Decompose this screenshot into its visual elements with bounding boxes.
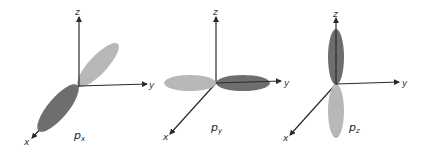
y-label: y [401, 78, 408, 88]
panel-px: z y x px [23, 7, 155, 147]
light-lobe [164, 75, 216, 91]
p-orbitals-diagram: z y x px z y x py z y x pz [0, 0, 427, 151]
z-label: z [212, 7, 218, 17]
y-label: y [148, 80, 155, 90]
orbital-label-px: px [73, 129, 86, 143]
y-axis [336, 82, 399, 84]
y-axis [79, 84, 147, 86]
orbital-label-py: py [210, 121, 223, 135]
x-label: x [282, 133, 289, 143]
panel-py: z y x py [162, 7, 290, 142]
x-label: x [162, 132, 169, 142]
y-label: y [283, 78, 290, 88]
panel-pz: z y x pz [282, 9, 408, 143]
orbital-label-pz: pz [348, 121, 360, 135]
x-label: x [23, 137, 30, 147]
z-label: z [74, 7, 80, 17]
z-label: z [332, 9, 338, 19]
light-lobe [328, 84, 344, 138]
